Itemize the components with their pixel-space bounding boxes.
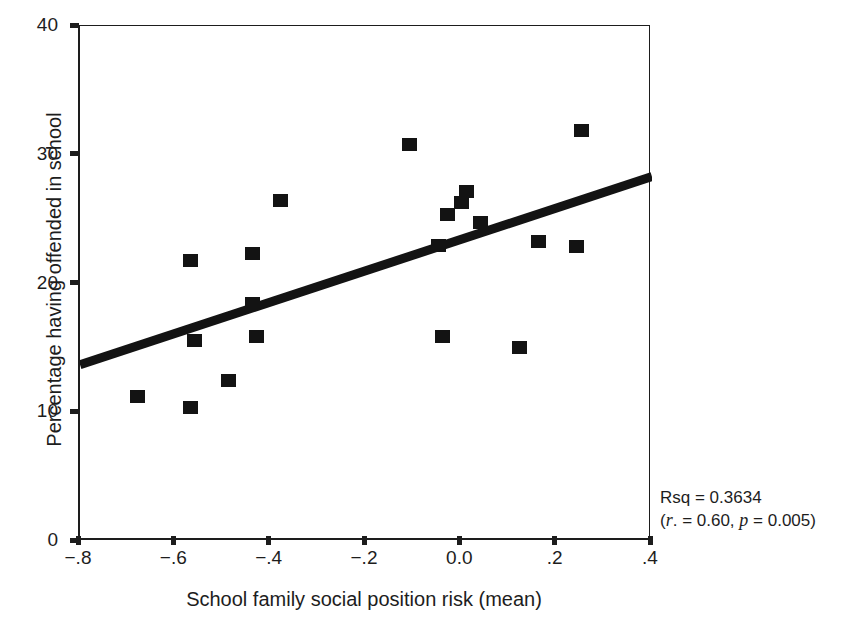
data-point xyxy=(273,194,288,207)
x-axis-label: School family social position risk (mean… xyxy=(78,588,650,611)
data-point xyxy=(454,196,469,209)
data-point xyxy=(245,247,260,260)
x-axis-tick xyxy=(362,536,367,545)
x-axis-tick-label: .4 xyxy=(620,548,680,568)
x-axis-tick-label: −.8 xyxy=(48,548,108,568)
data-point xyxy=(473,216,488,229)
data-point xyxy=(435,330,450,343)
scan-artifact-top: ˙˙ ˙ xyxy=(455,0,575,4)
plot-area xyxy=(78,25,650,540)
data-point xyxy=(187,334,202,347)
r-value: . = 0.60, xyxy=(673,511,740,530)
x-axis-tick xyxy=(648,536,653,545)
x-axis-tick xyxy=(457,536,462,545)
x-axis-tick-label: −.6 xyxy=(143,548,203,568)
data-point xyxy=(130,390,145,403)
correlation-line: (r. = 0.60, p = 0.005) xyxy=(660,509,816,532)
data-point xyxy=(249,330,264,343)
data-point xyxy=(512,341,527,354)
data-point xyxy=(402,138,417,151)
data-point xyxy=(245,297,260,310)
x-axis-tick-label: −.2 xyxy=(334,548,394,568)
rsq-line: Rsq = 0.3634 xyxy=(660,486,816,509)
y-axis-label: Percentage having offended in school xyxy=(43,20,66,540)
data-point xyxy=(531,235,546,248)
data-point xyxy=(183,254,198,267)
x-axis-tick xyxy=(171,536,176,545)
data-point xyxy=(459,185,474,198)
x-axis-tick xyxy=(76,536,81,545)
data-point xyxy=(221,374,236,387)
x-axis-tick-label: −.4 xyxy=(239,548,299,568)
p-value: = 0.005) xyxy=(748,511,816,530)
scatter-plot-figure: ˙˙ ˙ 010203040 −.8−.6−.4−.20.0.2.4 Perce… xyxy=(0,0,857,628)
stats-annotation: Rsq = 0.3634 (r. = 0.60, p = 0.005) xyxy=(660,486,816,532)
x-axis-tick xyxy=(552,536,557,545)
data-point xyxy=(183,401,198,414)
x-axis-tick-label: .2 xyxy=(525,548,585,568)
data-point xyxy=(440,208,455,221)
r-symbol: r xyxy=(666,510,673,530)
regression-line xyxy=(80,26,652,541)
x-axis-tick-label: 0.0 xyxy=(429,548,489,568)
data-point xyxy=(574,124,589,137)
p-symbol: p xyxy=(739,510,748,530)
data-point xyxy=(569,240,584,253)
x-axis-tick xyxy=(266,536,271,545)
data-point xyxy=(431,239,446,252)
